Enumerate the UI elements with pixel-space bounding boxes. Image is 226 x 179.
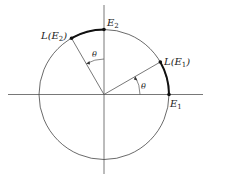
label-le1: L(E1) bbox=[163, 56, 190, 69]
rotation-diagram: E2 E1 L(E1) L(E2) θ θ bbox=[0, 0, 226, 179]
point-e1 bbox=[167, 93, 171, 97]
label-e2: E2 bbox=[106, 17, 119, 30]
label-e1: E1 bbox=[169, 98, 182, 111]
label-theta1: θ bbox=[141, 82, 146, 91]
point-le2 bbox=[70, 36, 74, 40]
label-le2: L(E2) bbox=[40, 30, 67, 43]
radius-le2 bbox=[72, 38, 105, 94]
label-theta2: θ bbox=[92, 50, 97, 59]
radius-le1 bbox=[104, 62, 160, 95]
arrowhead-theta2 bbox=[86, 61, 90, 65]
point-le1 bbox=[159, 60, 163, 64]
arc-le2-e2 bbox=[72, 29, 105, 38]
point-e2 bbox=[102, 28, 106, 32]
